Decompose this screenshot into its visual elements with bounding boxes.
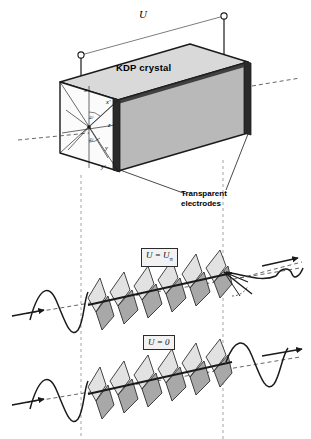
upper-voltage-badge: U = Uπ [141, 248, 178, 267]
angle-label-upper: 45° [89, 116, 95, 120]
upper-voltage-text: U = U [146, 250, 170, 260]
terminal-left-icon [78, 52, 84, 58]
terminal-right-icon [221, 13, 227, 19]
axis-label-x: x [83, 86, 87, 93]
lower-voltage-badge: U = 0 [143, 335, 175, 350]
electrodes-label: Transparent electrodes [181, 189, 227, 209]
axis-label-y-prime: y' [100, 163, 106, 170]
axis-label-y: y [104, 144, 108, 151]
wave-lower-group [12, 339, 302, 422]
axis-label-z: z [107, 121, 111, 128]
electrode-output-slab [244, 61, 251, 135]
crystal-label: KDP crystal [116, 62, 171, 73]
electrode-input-slab [113, 98, 120, 172]
axis-label-x-prime: x' [105, 98, 111, 105]
upper-output-polarization [224, 258, 303, 296]
angle-label-lower: 45° [89, 138, 95, 142]
electrodes-label-line2: electrodes [181, 199, 221, 208]
lower-helix-lobes [88, 339, 232, 419]
electrodes-label-line1: Transparent [181, 189, 227, 198]
lower-voltage-text: U = 0 [148, 337, 170, 347]
upper-voltage-subscript: π [170, 255, 173, 262]
voltage-source-label: U [139, 8, 147, 20]
lower-output-wave [226, 343, 288, 387]
